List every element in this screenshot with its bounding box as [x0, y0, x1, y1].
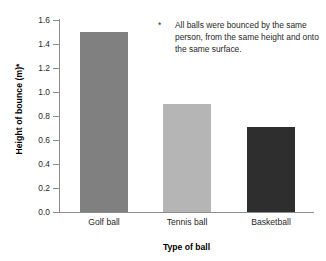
x-tick-label: Golf ball	[59, 217, 149, 227]
footnote-marker: *	[158, 19, 161, 31]
bar-chart: Height of bounce (m)* 0.00.20.40.60.81.0…	[0, 0, 326, 261]
x-axis-line	[59, 212, 314, 213]
bar	[163, 104, 211, 212]
bar	[80, 32, 128, 212]
bar	[247, 127, 295, 212]
footnote-text: All balls were bounced by the same perso…	[175, 19, 326, 56]
x-tick-label: Tennis ball	[142, 217, 232, 227]
x-tick-label: Basketball	[226, 217, 316, 227]
x-axis-title: Type of ball	[59, 242, 314, 252]
y-tick-mark	[53, 212, 59, 213]
